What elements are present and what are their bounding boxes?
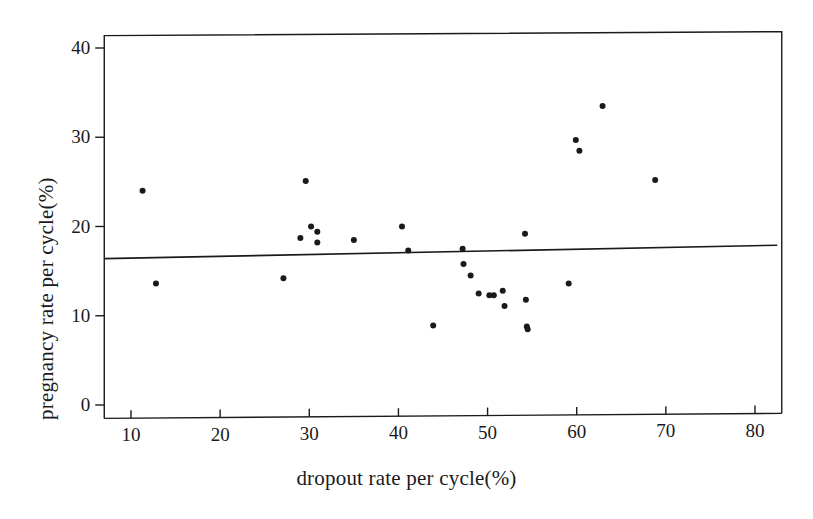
- x-tick-label: 60: [567, 421, 586, 443]
- x-tick-label: 50: [478, 422, 497, 444]
- axes-frame: [104, 32, 781, 419]
- x-tick-label: 70: [656, 420, 675, 442]
- y-tick-label: 30: [71, 126, 90, 148]
- y-tick-label: 40: [71, 37, 90, 59]
- x-tick-label: 40: [389, 422, 408, 444]
- y-axis-tick-marks: [95, 48, 104, 405]
- data-points: [140, 103, 659, 332]
- y-tick-label: 10: [71, 305, 90, 327]
- x-tick-label: 80: [746, 420, 765, 442]
- y-tick-label: 20: [71, 216, 90, 238]
- y-tick-label: 0: [81, 394, 91, 416]
- scatter-plot-figure: dropout rate per cycle(%) pregnancy rate…: [0, 0, 813, 519]
- trend-line: [104, 245, 777, 258]
- x-tick-label: 30: [300, 423, 319, 445]
- y-axis-label: pregnancy rate per cycle(%): [34, 60, 59, 420]
- x-tick-label: 20: [211, 424, 230, 446]
- x-tick-label: 10: [122, 424, 141, 446]
- x-axis-label: dropout rate per cycle(%): [0, 466, 813, 491]
